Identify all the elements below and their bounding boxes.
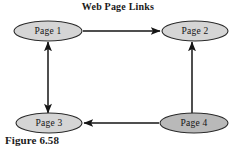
node-page3[interactable]: Page 3	[16, 113, 82, 133]
figure-container: Web Page Links Page 1 Page 2	[0, 0, 236, 152]
node-page4-label: Page 4	[181, 118, 208, 128]
node-page1[interactable]: Page 1	[14, 21, 82, 41]
node-page4[interactable]: Page 4	[160, 113, 228, 133]
node-page3-label: Page 3	[36, 118, 63, 128]
node-page2[interactable]: Page 2	[162, 21, 228, 41]
figure-caption: Figure 6.58	[5, 134, 59, 146]
web-page-links-graph: Page 1 Page 2 Page 3 Page 4	[0, 0, 236, 152]
node-page2-label: Page 2	[182, 26, 209, 36]
node-page1-label: Page 1	[35, 26, 62, 36]
